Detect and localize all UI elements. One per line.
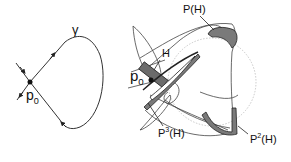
outgoing-arrow-icon: [20, 92, 23, 96]
fixed-point-p0-right: [149, 78, 154, 83]
P2H-label: P2(H): [250, 134, 277, 145]
PH-label: P(H): [183, 4, 206, 15]
leader-P2H: [238, 126, 248, 134]
fixed-point-p0: [28, 80, 33, 85]
p0-label-subscript: 0: [34, 96, 39, 106]
P3H-label: P3(H): [158, 128, 185, 139]
p0-label-letter: p: [26, 87, 34, 103]
p0-label-right: p0: [130, 68, 144, 83]
loop-arrow-return-icon: [62, 123, 66, 127]
homoclinic-loop-diagram: [16, 36, 103, 128]
p0-label-left: p0: [26, 88, 39, 102]
incoming-manifold-line: [16, 63, 30, 82]
p0-right-subscript: 0: [138, 76, 143, 87]
diagram-canvas: [0, 0, 291, 162]
leader-PH: [200, 16, 214, 30]
gamma-label: γ: [72, 23, 79, 36]
flow-lines: [128, 23, 238, 135]
iterate-region-P2H: [202, 108, 237, 135]
dotted-orbit-circle: [168, 38, 256, 126]
loop-arrow-up-icon: [50, 54, 54, 59]
poincare-map-diagram: [128, 16, 256, 136]
gamma-loop-curve: [30, 36, 103, 128]
H-label: H: [162, 48, 170, 59]
